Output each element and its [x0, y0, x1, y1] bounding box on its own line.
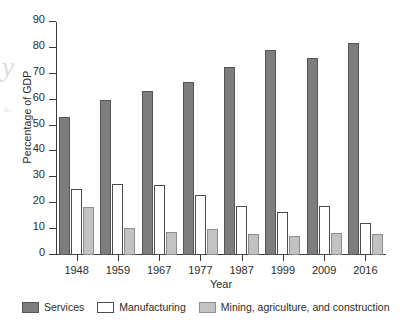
bar-mining [248, 234, 259, 255]
y-axis-tick-label: 20 [33, 195, 45, 206]
legend-swatch-manufacturing [97, 302, 114, 313]
bar-mining [289, 236, 300, 255]
x-axis-tick [283, 255, 284, 261]
y-axis-tick-label: 50 [33, 118, 45, 129]
bar-mining [83, 207, 94, 255]
bar-services [265, 50, 276, 255]
y-axis-tick: 30 [49, 176, 56, 177]
bar-services [348, 43, 359, 255]
y-axis-tick: 10 [49, 228, 56, 229]
y-axis-tick-label: 70 [33, 66, 45, 77]
bar-group: 1987 [221, 22, 262, 255]
bar-services [307, 58, 318, 255]
bar-manufacturing [154, 185, 165, 255]
bar-manufacturing [236, 206, 247, 255]
x-axis-tick-label: 2009 [304, 264, 345, 276]
bar-services [183, 82, 194, 255]
bar-groups: 19481959196719771987199920092016 [56, 22, 386, 255]
y-axis-tick-label: 90 [33, 14, 45, 25]
bar-group: 1967 [139, 22, 180, 255]
plot-area: 0102030405060708090 19481959196719771987… [56, 22, 386, 255]
y-axis-tick: 0 [49, 254, 56, 255]
bar-mining [166, 232, 177, 255]
bar-services [100, 100, 111, 255]
bar-manufacturing [195, 195, 206, 255]
legend-label: Services [44, 301, 84, 313]
x-axis-tick-label: 1967 [139, 264, 180, 276]
bar-services [142, 91, 153, 255]
bar-group: 1959 [97, 22, 138, 255]
y-axis-tick: 20 [49, 202, 56, 203]
legend-label: Mining, agriculture, and construction [221, 301, 390, 313]
legend-item: Manufacturing [97, 301, 186, 313]
bar-chart-figure: y s. Percentage of GDP 01020304050607080… [0, 0, 404, 327]
x-axis-tick [324, 255, 325, 261]
bar-manufacturing [277, 212, 288, 255]
bar-group: 2009 [304, 22, 345, 255]
bar-group: 1999 [262, 22, 303, 255]
page-bleed-artifact-letter: y [2, 52, 14, 83]
x-axis-title: Year [56, 278, 386, 290]
legend-swatch-mining [199, 302, 216, 313]
legend-swatch-services [22, 302, 39, 313]
y-axis-tick: 80 [49, 47, 56, 48]
page-bleed-artifact-mark: s. [4, 103, 10, 114]
bar-manufacturing [319, 206, 330, 255]
x-axis-tick [242, 255, 243, 261]
y-axis-tick: 70 [49, 73, 56, 74]
bar-manufacturing [112, 184, 123, 255]
y-axis-tick-label: 0 [39, 247, 45, 258]
legend-label: Manufacturing [119, 301, 186, 313]
y-axis-tick: 40 [49, 150, 56, 151]
bar-services [224, 67, 235, 255]
x-axis-tick-label: 1948 [56, 264, 97, 276]
bar-mining [124, 228, 135, 255]
y-axis-tick-label: 10 [33, 221, 45, 232]
x-axis-tick [77, 255, 78, 261]
legend-item: Services [22, 301, 84, 313]
bar-manufacturing [360, 223, 371, 255]
x-axis-tick [365, 255, 366, 261]
y-axis-tick-label: 80 [33, 40, 45, 51]
y-axis-tick: 50 [49, 125, 56, 126]
x-axis-tick-label: 1999 [262, 264, 303, 276]
y-axis-tick: 90 [49, 21, 56, 22]
x-axis-tick-label: 1977 [180, 264, 221, 276]
y-axis-tick-label: 60 [33, 92, 45, 103]
bar-mining [331, 233, 342, 255]
y-axis-tick-label: 40 [33, 143, 45, 154]
bar-services [59, 117, 70, 256]
bar-mining [207, 229, 218, 255]
legend-item: Mining, agriculture, and construction [199, 301, 390, 313]
y-axis-title-label: Percentage of GDP [21, 70, 33, 163]
y-axis-tick: 60 [49, 99, 56, 100]
bar-group: 1948 [56, 22, 97, 255]
x-axis-tick-label: 1959 [97, 264, 138, 276]
bar-manufacturing [71, 189, 82, 255]
x-axis-tick [159, 255, 160, 261]
bar-group: 2016 [345, 22, 386, 255]
bar-group: 1977 [180, 22, 221, 255]
x-axis-tick-label: 1987 [221, 264, 262, 276]
x-axis-tick-label: 2016 [345, 264, 386, 276]
x-axis-tick [118, 255, 119, 261]
x-axis-tick [200, 255, 201, 261]
chart-legend: ServicesManufacturingMining, agriculture… [22, 301, 394, 313]
y-axis-tick-label: 30 [33, 169, 45, 180]
bar-mining [372, 234, 383, 255]
